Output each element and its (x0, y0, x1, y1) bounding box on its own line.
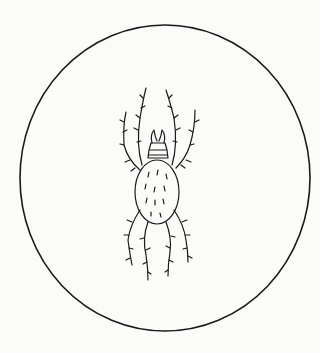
field-circle (20, 25, 310, 331)
mite-figure (0, 0, 320, 353)
mite-drawing (120, 88, 199, 280)
